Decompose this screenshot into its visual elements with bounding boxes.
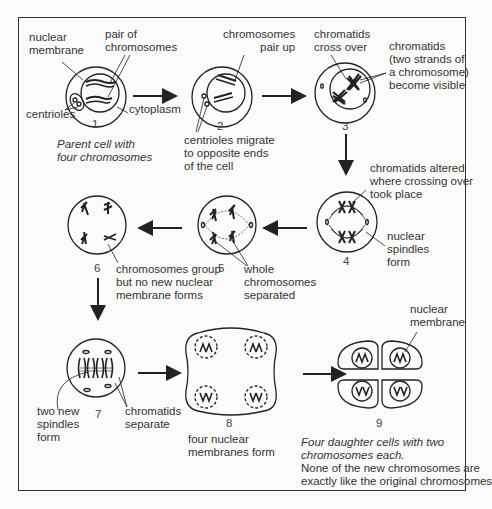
caption-daughter-cells: Four daughter cells with twochromosomes … [301, 436, 444, 462]
label-chromatids-separate: chromatidsseparate [125, 405, 181, 431]
label-centrioles: centrioles [26, 108, 75, 121]
cell-8 [186, 328, 277, 415]
label-nuclear-membrane: nuclearmembrane [29, 31, 84, 57]
label-nuclear-membrane-9: nuclearmembrane [410, 303, 465, 329]
label-whole-chromosomes: wholechromosomesseparated [244, 263, 316, 302]
label-chromatids-cross-over: chromatidscross over [314, 28, 370, 54]
label-chromatids-altered: chromatids alteredwhere crossing overtoo… [370, 162, 473, 201]
label-chromosomes-group: chromosomes groupbut no new nuclearmembr… [116, 263, 221, 302]
stage-number-1: 1 [92, 118, 98, 130]
cell-3 [315, 55, 386, 123]
stage-number-4: 4 [343, 255, 349, 267]
caption-parent-cell: Parent cell withfour chromosomes [57, 138, 152, 164]
cell-6 [68, 196, 126, 263]
cell-7 [57, 339, 127, 410]
stage-number-2: 2 [217, 120, 223, 132]
stage-number-6: 6 [94, 262, 100, 274]
label-pair-of-chromosomes: pair ofchromosomes [105, 28, 177, 54]
stage-number-8: 8 [226, 417, 232, 429]
stage-number-7: 7 [95, 408, 101, 420]
label-cytoplasm: cytoplasm [129, 103, 181, 116]
stage-number-3: 3 [342, 120, 348, 132]
label-two-new-spindles: two newspindlesform [37, 405, 79, 444]
cell-5 [198, 196, 256, 266]
label-nuclear-spindles: nuclearspindlesform [387, 230, 429, 269]
label-chromosomes-pair-up: chromosomespair up [223, 28, 295, 54]
cell-9 [338, 332, 422, 408]
label-chromatids-visible: chromatids(two strands ofa chromosome)be… [389, 40, 469, 92]
label-centrioles-migrate: centrioles migrateto opposite endsof the… [184, 134, 275, 173]
caption-new-chromosomes: None of the new chromosomes areexactly l… [301, 462, 492, 488]
stage-number-9: 9 [376, 417, 382, 429]
label-four-nuclear-membranes: four nuclearmembranes form [188, 433, 275, 459]
